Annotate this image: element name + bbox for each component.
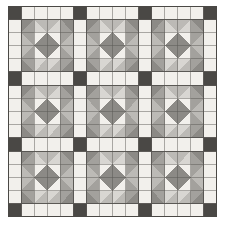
sash-cell [139, 59, 152, 73]
sash-cell [139, 112, 152, 126]
sash-cell [126, 72, 139, 86]
sash-cell [8, 112, 21, 126]
sash-cell [73, 19, 86, 33]
sash-cell [34, 204, 47, 217]
sash-cell [204, 164, 217, 178]
sash-cell [178, 72, 191, 86]
quilt-image: Patchwork quilt pattern [0, 0, 225, 232]
quilt-canvas [8, 6, 217, 217]
sash-cell [47, 138, 60, 152]
sash-cell [152, 72, 165, 86]
cornerstone [139, 204, 152, 217]
sash-cell [204, 32, 217, 46]
sash-cell [204, 151, 217, 165]
cornerstone [8, 72, 21, 86]
sash-cell [165, 6, 178, 20]
sash-cell [204, 19, 217, 33]
cornerstone [73, 72, 86, 86]
sash-cell [152, 138, 165, 152]
sash-cell [126, 6, 139, 20]
sash-cell [73, 125, 86, 139]
sash-cell [8, 32, 21, 46]
sash-cell [8, 46, 21, 60]
sash-cell [21, 204, 34, 217]
cornerstone [8, 138, 21, 152]
sash-cell [73, 164, 86, 178]
sash-cell [8, 98, 21, 112]
sash-cell [191, 6, 204, 20]
sash-cell [139, 19, 152, 33]
sash-cell [73, 177, 86, 191]
sash-cell [73, 32, 86, 46]
sash-cell [60, 72, 73, 86]
sash-cell [191, 204, 204, 217]
cornerstone [139, 138, 152, 152]
cornerstone [204, 138, 217, 152]
sash-cell [8, 59, 21, 73]
sash-cell [165, 204, 178, 217]
sash-cell [47, 6, 60, 20]
sash-cell [86, 6, 99, 20]
sash-cell [21, 72, 34, 86]
sash-cell [126, 138, 139, 152]
sash-cell [178, 6, 191, 20]
cornerstone [204, 6, 217, 20]
sash-cell [204, 98, 217, 112]
sash-cell [8, 151, 21, 165]
sash-cell [99, 72, 112, 86]
sash-cell [60, 204, 73, 217]
sash-cell [139, 98, 152, 112]
cornerstone [8, 204, 21, 217]
sash-cell [204, 112, 217, 126]
sash-cell [139, 125, 152, 139]
cornerstone [73, 138, 86, 152]
sash-cell [139, 32, 152, 46]
sash-cell [191, 138, 204, 152]
sash-cell [204, 191, 217, 205]
sash-cell [139, 177, 152, 191]
cornerstone [73, 6, 86, 20]
sash-cell [8, 125, 21, 139]
sash-cell [34, 72, 47, 86]
sash-cell [86, 138, 99, 152]
cornerstone [139, 6, 152, 20]
sash-cell [126, 204, 139, 217]
sash-cell [152, 204, 165, 217]
sash-cell [139, 85, 152, 99]
sash-cell [21, 138, 34, 152]
sash-cell [73, 112, 86, 126]
sash-cell [165, 72, 178, 86]
sash-cell [73, 151, 86, 165]
sash-cell [139, 191, 152, 205]
sash-cell [139, 46, 152, 60]
sash-cell [73, 59, 86, 73]
sash-cell [60, 6, 73, 20]
sash-cell [21, 6, 34, 20]
sash-cell [139, 151, 152, 165]
sash-cell [8, 177, 21, 191]
sash-cell [8, 85, 21, 99]
sash-cell [47, 72, 60, 86]
cornerstone [204, 72, 217, 86]
sash-cell [204, 125, 217, 139]
sash-cell [165, 138, 178, 152]
sash-cell [152, 6, 165, 20]
sash-cell [191, 72, 204, 86]
sash-cell [73, 46, 86, 60]
sash-cell [73, 191, 86, 205]
sash-cell [60, 138, 73, 152]
sash-cell [73, 98, 86, 112]
sash-cell [99, 6, 112, 20]
sash-cell [86, 72, 99, 86]
sash-cell [47, 204, 60, 217]
sash-cell [73, 85, 86, 99]
quilt-svg [8, 6, 217, 217]
sash-cell [99, 138, 112, 152]
cornerstone [73, 204, 86, 217]
sash-cell [8, 19, 21, 33]
sash-cell [204, 46, 217, 60]
sash-cell [178, 138, 191, 152]
sash-cell [8, 164, 21, 178]
sash-cell [178, 204, 191, 217]
sash-cell [204, 59, 217, 73]
